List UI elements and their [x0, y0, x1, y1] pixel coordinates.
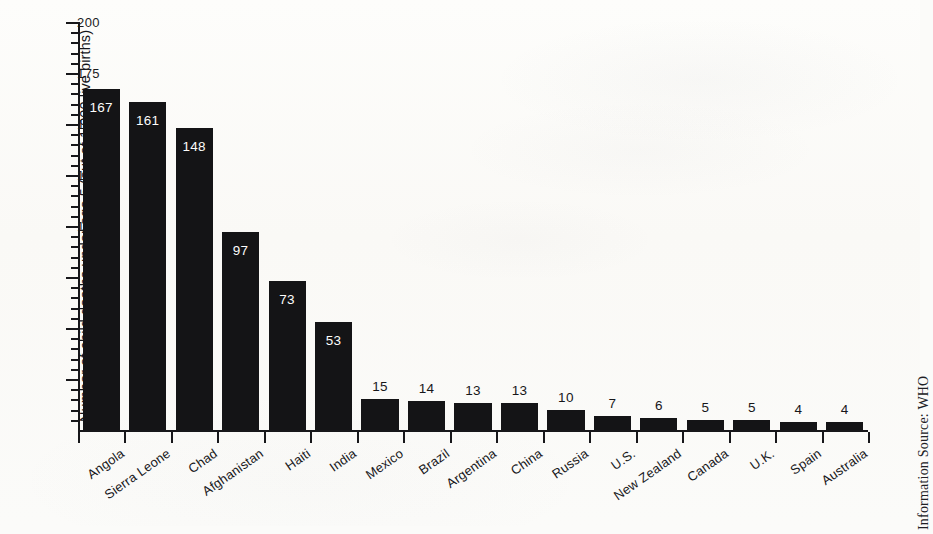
bar-group[interactable]: 15 — [361, 22, 398, 430]
bar-group[interactable]: 53 — [315, 22, 352, 430]
bar-value-label: 53 — [315, 333, 352, 348]
bar[interactable] — [83, 89, 120, 430]
bar-value-label: 7 — [594, 396, 631, 411]
bar-value-label: 148 — [176, 139, 213, 154]
x-axis-tick-label: U.S. — [608, 444, 640, 473]
bar[interactable] — [176, 128, 213, 430]
x-axis-tick-label: China — [508, 444, 548, 478]
bar-value-label: 10 — [547, 390, 584, 405]
bar-group[interactable]: 10 — [547, 22, 584, 430]
x-axis-tick-label: U.K. — [747, 444, 779, 473]
bar-value-label: 15 — [361, 379, 398, 394]
x-axis-tick-labels: AngolaSierra LeoneChadAfghanistanHaitiIn… — [78, 444, 868, 534]
bar-group[interactable]: 13 — [501, 22, 538, 430]
bar-value-label: 97 — [222, 243, 259, 258]
x-axis-label-wrap: Australia — [864, 412, 918, 456]
bar-group[interactable]: 148 — [176, 22, 213, 430]
bar-value-label: 167 — [83, 100, 120, 115]
x-axis-tick-label: India — [327, 444, 362, 475]
bar-group[interactable]: 97 — [222, 22, 259, 430]
bar[interactable] — [129, 102, 166, 430]
plot-area: Number of child deaths under age 5 (out … — [78, 22, 868, 430]
bar-group[interactable]: 4 — [780, 22, 817, 430]
bar-group[interactable]: 161 — [129, 22, 166, 430]
bar[interactable] — [780, 422, 817, 430]
bar-group[interactable]: 5 — [687, 22, 724, 430]
bar-value-label: 4 — [780, 402, 817, 417]
source-note: Information Source: WHO — [916, 280, 933, 530]
bar-value-label: 14 — [408, 381, 445, 396]
bar-group[interactable]: 7 — [594, 22, 631, 430]
bar-group[interactable]: 14 — [408, 22, 445, 430]
bar-group[interactable]: 5 — [733, 22, 770, 430]
bar-value-label: 13 — [454, 383, 491, 398]
bar-value-label: 5 — [687, 400, 724, 415]
x-axis-tick-label: Brazil — [416, 444, 455, 477]
bar[interactable] — [640, 418, 677, 430]
bar-value-label: 73 — [269, 292, 306, 307]
x-axis-tick-label: Chad — [185, 444, 222, 476]
bar-value-label: 161 — [129, 113, 166, 128]
bars-container: 1671611489773531514131310765544 — [78, 22, 868, 430]
bar-group[interactable]: 6 — [640, 22, 677, 430]
bar-group[interactable]: 73 — [269, 22, 306, 430]
bar-group[interactable]: 167 — [83, 22, 120, 430]
bar-group[interactable]: 13 — [454, 22, 491, 430]
bar-value-label: 6 — [640, 398, 677, 413]
bar-value-label: 4 — [826, 402, 863, 417]
x-axis-tick — [78, 432, 80, 443]
x-axis-tick-label: Haiti — [282, 444, 315, 474]
x-axis-tick-label: Spain — [787, 444, 826, 478]
bar-value-label: 13 — [501, 383, 538, 398]
bar[interactable] — [361, 399, 398, 430]
bar-group[interactable]: 4 — [826, 22, 863, 430]
